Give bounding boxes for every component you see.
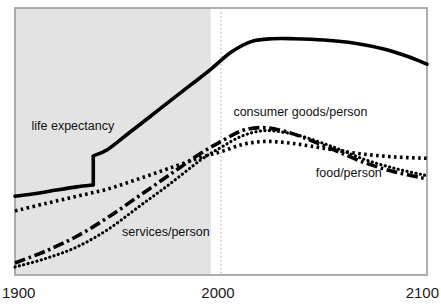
series-label-services: services/person <box>122 225 210 239</box>
series-label-consumer-goods: consumer goods/person <box>233 105 367 119</box>
world-model-scenario-chart: life expectancy consumer goods/person fo… <box>0 0 441 306</box>
x-axis-tick-2000: 2000 <box>201 284 234 301</box>
x-axis-tick-2100: 2100 <box>406 284 439 301</box>
x-axis-tick-1900: 1900 <box>2 284 35 301</box>
series-label-life-expectancy: life expectancy <box>32 119 115 133</box>
chart-container: life expectancy consumer goods/person fo… <box>0 0 441 306</box>
series-label-food: food/person <box>316 166 382 180</box>
